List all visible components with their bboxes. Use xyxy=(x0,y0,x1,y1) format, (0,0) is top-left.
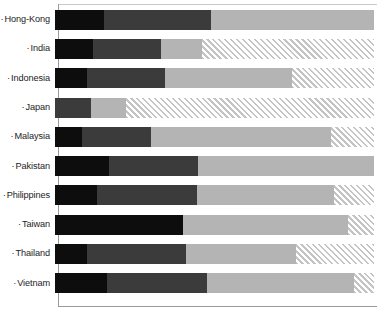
plot-area: ·Hong-Kong·India·Indonesia·Japan·Malaysi… xyxy=(0,0,386,312)
category-label-text: Indonesia xyxy=(11,73,50,83)
bar-segment-series-3 xyxy=(211,10,374,30)
bar-segment-series-2 xyxy=(82,127,151,147)
bar-segment-series-3 xyxy=(186,244,296,264)
category-label-thailand: ·Thailand xyxy=(0,249,54,258)
bar-segment-series-1 xyxy=(55,244,87,264)
chart-row: ·India xyxy=(0,34,386,63)
chart-row: ·Hong-Kong xyxy=(0,5,386,34)
category-label-text: Japan xyxy=(25,102,50,112)
category-label-text: Pakistan xyxy=(16,161,50,171)
bar-segment-series-1 xyxy=(55,127,82,147)
chart-row: ·Taiwan xyxy=(0,210,386,239)
bar-segment-series-4 xyxy=(202,39,374,59)
stacked-bar xyxy=(55,98,374,118)
category-label-philippines: ·Philippines xyxy=(0,191,54,200)
category-label-vietnam: ·Vietnam xyxy=(0,279,54,288)
tick-bullet-icon: · xyxy=(7,73,10,83)
category-label-taiwan: ·Taiwan xyxy=(0,220,54,229)
bar-segment-series-2 xyxy=(104,10,211,30)
chart-rows: ·Hong-Kong·India·Indonesia·Japan·Malaysi… xyxy=(0,5,386,306)
bar-segment-series-3 xyxy=(198,156,374,176)
category-label-pakistan: ·Pakistan xyxy=(0,162,54,171)
stacked-bar xyxy=(55,273,374,293)
stacked-bar xyxy=(55,68,374,88)
category-label-indonesia: ·Indonesia xyxy=(0,74,54,83)
bar-segment-series-2 xyxy=(55,98,91,118)
value-axis-baseline xyxy=(58,306,377,307)
bar-segment-series-4 xyxy=(126,98,374,118)
bar-segment-series-1 xyxy=(55,10,104,30)
category-label-text: Hong-Kong xyxy=(4,14,50,24)
bar-segment-series-3 xyxy=(183,215,348,235)
chart-row: ·Indonesia xyxy=(0,64,386,93)
bar-segment-series-1 xyxy=(55,215,183,235)
category-label-india: ·India xyxy=(0,44,54,53)
bar-segment-series-2 xyxy=(87,68,165,88)
bar-segment-series-4 xyxy=(334,185,374,205)
tick-bullet-icon: · xyxy=(0,14,3,24)
category-label-text: India xyxy=(31,43,50,53)
chart-row: ·Thailand xyxy=(0,239,386,268)
bar-segment-series-2 xyxy=(97,185,197,205)
bar-segment-series-2 xyxy=(107,273,207,293)
bar-segment-series-2 xyxy=(93,39,161,59)
category-label-malaysia: ·Malaysia xyxy=(0,132,54,141)
bar-segment-series-3 xyxy=(161,39,202,59)
stacked-bar xyxy=(55,244,374,264)
bar-segment-series-4 xyxy=(292,68,374,88)
stacked-bar xyxy=(55,156,374,176)
stacked-bar-chart: ·Hong-Kong·India·Indonesia·Japan·Malaysi… xyxy=(0,0,386,312)
category-label-japan: ·Japan xyxy=(0,103,54,112)
stacked-bar xyxy=(55,127,374,147)
tick-bullet-icon: · xyxy=(3,190,6,200)
chart-row: ·Pakistan xyxy=(0,151,386,180)
bar-segment-series-1 xyxy=(55,185,97,205)
tick-bullet-icon: · xyxy=(27,43,30,53)
tick-bullet-icon: · xyxy=(21,102,24,112)
bar-segment-series-4 xyxy=(296,244,374,264)
category-label-text: Philippines xyxy=(7,190,50,200)
bar-segment-series-2 xyxy=(87,244,186,264)
bar-segment-series-2 xyxy=(109,156,198,176)
bar-segment-series-4 xyxy=(331,127,374,147)
bar-segment-series-1 xyxy=(55,68,87,88)
tick-bullet-icon: · xyxy=(12,161,15,171)
stacked-bar xyxy=(55,10,374,30)
bar-segment-series-1 xyxy=(55,39,93,59)
bar-segment-series-1 xyxy=(55,156,109,176)
bar-segment-series-3 xyxy=(91,98,126,118)
bar-segment-series-4 xyxy=(354,273,374,293)
chart-row: ·Vietnam xyxy=(0,269,386,298)
stacked-bar xyxy=(55,185,374,205)
category-label-text: Thailand xyxy=(16,248,50,258)
bar-segment-series-3 xyxy=(165,68,292,88)
category-label-text: Malaysia xyxy=(15,131,50,141)
chart-row: ·Japan xyxy=(0,93,386,122)
bar-segment-series-3 xyxy=(197,185,334,205)
bar-segment-series-4 xyxy=(348,215,374,235)
category-label-text: Vietnam xyxy=(17,278,50,288)
tick-bullet-icon: · xyxy=(13,278,16,288)
tick-bullet-icon: · xyxy=(12,248,15,258)
stacked-bar xyxy=(55,215,374,235)
chart-row: ·Malaysia xyxy=(0,122,386,151)
stacked-bar xyxy=(55,39,374,59)
category-label-text: Taiwan xyxy=(22,219,50,229)
tick-bullet-icon: · xyxy=(18,219,21,229)
bar-segment-series-3 xyxy=(207,273,354,293)
tick-bullet-icon: · xyxy=(11,131,14,141)
category-label-hong-kong: ·Hong-Kong xyxy=(0,15,54,24)
bar-segment-series-3 xyxy=(151,127,331,147)
bar-segment-series-1 xyxy=(55,273,107,293)
chart-row: ·Philippines xyxy=(0,181,386,210)
